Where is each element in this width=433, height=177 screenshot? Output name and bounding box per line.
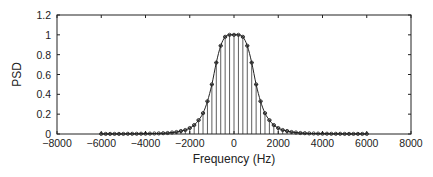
x-tick-label: 0: [231, 137, 237, 149]
y-tick-label: 0: [45, 128, 51, 140]
x-tick-label: 2000: [267, 137, 291, 149]
y-tick-label: 0.4: [36, 88, 51, 100]
x-tick-label: −6000: [87, 137, 117, 149]
y-tick-label: 1.2: [36, 9, 51, 21]
y-axis-label: PSD: [10, 62, 24, 87]
x-tick-label: −4000: [131, 137, 161, 149]
x-tick-label: 6000: [355, 137, 379, 149]
y-tick-label: 0.6: [36, 69, 51, 81]
x-axis-label: Frequency (Hz): [193, 152, 276, 166]
y-tick-label: 0.8: [36, 49, 51, 61]
x-tick-label: 8000: [399, 137, 423, 149]
x-tick-label: 4000: [311, 137, 335, 149]
y-tick-label: 0.2: [36, 108, 51, 120]
y-tick-label: 1: [45, 29, 51, 41]
y-axis-ticks: 00.20.40.60.811.2: [36, 9, 411, 140]
psd-chart: −8000−6000−4000−200002000400060008000 00…: [0, 0, 433, 177]
x-tick-label: −2000: [175, 137, 205, 149]
stem-lines: [101, 35, 367, 134]
